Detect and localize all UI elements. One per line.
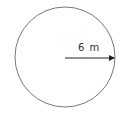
circle-diagram xyxy=(0,0,124,114)
radius-label: 6 m xyxy=(78,42,100,53)
circle xyxy=(15,7,115,107)
